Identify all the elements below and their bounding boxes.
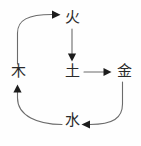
node-label-earth: 土 xyxy=(62,64,82,81)
arrowhead-into-wood xyxy=(13,85,21,93)
node-label-fire: 火 xyxy=(62,10,82,27)
node-label-metal: 金 xyxy=(114,64,134,81)
node-label-water: 水 xyxy=(62,113,82,130)
node-label-wood: 木 xyxy=(8,64,28,81)
edge-metal-to-water xyxy=(90,82,123,125)
wuxing-cycle-diagram: 木 火 土 金 水 xyxy=(0,0,141,146)
arrowhead-into-earth xyxy=(68,54,76,62)
edge-wood-to-fire xyxy=(18,15,53,65)
arrowhead-into-water xyxy=(82,120,91,128)
arrowhead-into-metal xyxy=(104,68,112,76)
edge-water-to-wood xyxy=(18,92,63,125)
arrowhead-into-fire xyxy=(52,11,61,19)
